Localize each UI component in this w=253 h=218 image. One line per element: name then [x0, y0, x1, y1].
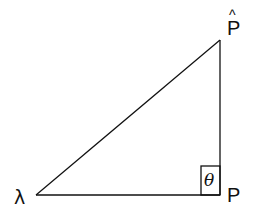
triangle-diagram	[0, 0, 253, 218]
label-theta: θ	[204, 172, 214, 189]
hypotenuse	[36, 40, 220, 195]
label-p-hat: P	[227, 18, 240, 38]
label-p: P	[227, 185, 240, 205]
label-lambda: λ	[14, 188, 25, 207]
